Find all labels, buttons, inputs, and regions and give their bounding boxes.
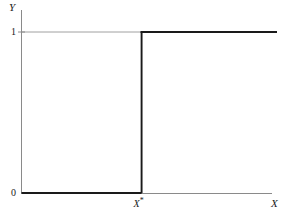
y-tick-label-one: 1 (11, 27, 16, 37)
x-tick-label-x-star: X* (134, 197, 144, 209)
step-function-chart: Y X 1 0 X* (0, 0, 285, 216)
y-axis-label: Y (9, 2, 15, 13)
x-axis-label: X (271, 198, 278, 209)
y-tick-label-zero: 0 (11, 188, 16, 198)
plot-canvas (0, 0, 285, 216)
x-tick-label-superscript: * (140, 196, 144, 205)
